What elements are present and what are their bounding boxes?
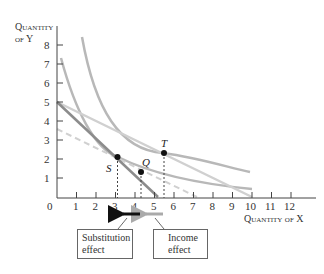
point-q [138,169,144,175]
point-s [115,154,121,160]
x-tick-10: 10 [245,200,257,212]
substitution-box-line2: effect [82,244,128,256]
point-t-label: T [161,137,168,149]
income-effect-box: Income effect [153,229,208,259]
income-leader [155,218,164,229]
y-tick-8: 8 [44,39,50,51]
substitution-box-line1: Substitution [82,232,128,244]
origin-label: 0 [47,200,53,212]
y-tick-4: 4 [44,115,50,127]
x-ticks [77,192,292,198]
y-axis-title-line2: of Y [15,33,33,44]
x-tick-11: 11 [265,200,276,212]
point-q-label: Q [142,156,150,168]
x-tick-4: 4 [132,200,138,212]
x-tick-5: 5 [151,200,157,212]
y-tick-6: 6 [44,77,50,89]
y-tick-7: 7 [44,58,50,70]
point-s-label: S [106,162,112,174]
y-tick-1: 1 [44,172,50,184]
x-axis-title: Quantity of X [244,213,304,224]
x-tick-2: 2 [93,200,99,212]
x-tick-9: 9 [229,200,235,212]
point-t [161,150,167,156]
income-box-line2: effect [168,244,203,256]
x-tick-3: 3 [112,200,118,212]
substitution-leader [118,218,127,229]
x-tick-6: 6 [171,200,177,212]
y-tick-3: 3 [44,134,50,146]
x-tick-1: 1 [73,200,79,212]
income-box-line1: Income [168,232,203,244]
y-tick-5: 5 [44,96,50,108]
indifference-curve-inner [61,58,252,189]
x-tick-8: 8 [210,200,216,212]
x-tick-12: 12 [284,200,295,212]
y-axis-title-line1: Quantity [15,21,53,32]
x-tick-7: 7 [190,200,196,212]
substitution-effect-box: Substitution effect [77,229,133,259]
y-tick-2: 2 [44,153,50,165]
new-budget-line [57,102,252,197]
